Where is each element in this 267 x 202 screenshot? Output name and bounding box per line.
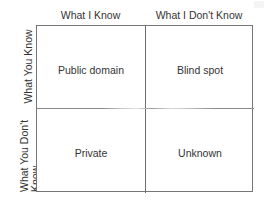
quadrant-label-private: Private (37, 147, 145, 160)
quadrant-public-domain: Public domain (37, 26, 145, 108)
quadrant-label-public-domain: Public domain (37, 64, 145, 77)
quadrant-label-unknown: Unknown (146, 147, 254, 160)
scan-artifact (254, 1, 264, 8)
divider-horizontal (37, 108, 254, 109)
row-label-what-you-know: What You Know (22, 25, 35, 108)
johari-window-diagram: What I Know What I Don't Know What You K… (0, 0, 267, 202)
quadrant-unknown: Unknown (146, 109, 254, 193)
matrix-frame: Public domain Blind spot Private Unknown (36, 25, 253, 192)
column-header-what-i-know: What I Know (36, 8, 145, 22)
column-header-what-i-dont-know: What I Don't Know (145, 8, 253, 22)
quadrant-blind-spot: Blind spot (146, 26, 254, 108)
quadrant-label-blind-spot: Blind spot (146, 64, 254, 77)
divider-vertical (145, 26, 146, 193)
quadrant-private: Private (37, 109, 145, 193)
